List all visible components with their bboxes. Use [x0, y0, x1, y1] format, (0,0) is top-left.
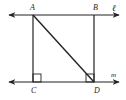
label-b: B	[93, 3, 98, 12]
label-l: ℓ	[112, 3, 116, 13]
right-angle-c	[33, 74, 41, 82]
segment-ad	[33, 15, 94, 82]
geometry-diagram: A B ℓ m C D	[0, 0, 126, 100]
label-m: m	[111, 71, 116, 79]
label-a: A	[29, 3, 35, 12]
label-d: D	[93, 86, 100, 95]
label-c: C	[31, 86, 37, 95]
